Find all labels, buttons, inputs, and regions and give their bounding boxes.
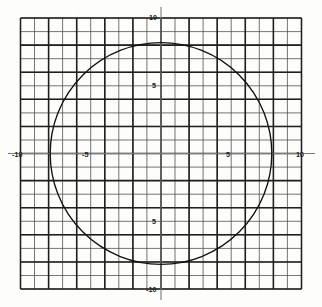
x-tick-label-pos5: 5 — [226, 150, 230, 159]
y-tick-label-neg5: 5 — [152, 217, 156, 226]
y-tick-label-neg10: -10 — [146, 285, 156, 294]
y-tick-label-pos10: 10 — [149, 13, 157, 22]
x-tick-label-neg5: -5 — [82, 150, 88, 159]
x-tick-label-pos10: 10 — [296, 150, 304, 159]
graph-figure: -10 -5 5 10 10 5 5 -10 — [0, 0, 322, 307]
y-tick-label-pos5: 5 — [152, 81, 156, 90]
x-tick-label-neg10: -10 — [12, 150, 22, 159]
coordinate-plane: -10 -5 5 10 10 5 5 -10 — [0, 0, 322, 307]
